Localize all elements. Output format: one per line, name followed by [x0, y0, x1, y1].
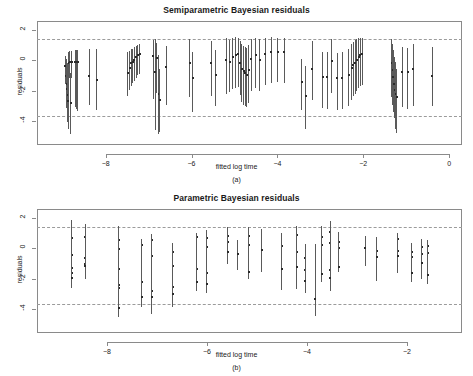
- residual-point: [321, 273, 323, 275]
- y-tick-label: 2: [19, 211, 26, 223]
- residual-point: [348, 74, 350, 76]
- panel-b-title: Parametric Bayesian residuals: [0, 193, 473, 203]
- credible-interval-segment: [192, 52, 193, 112]
- credible-interval-segment: [237, 240, 238, 270]
- residual-point: [215, 74, 217, 76]
- credible-interval-segment: [312, 41, 313, 100]
- credible-interval-segment: [77, 50, 78, 111]
- panel-a-x-axis-label: fitted log time: [0, 163, 473, 170]
- y-tick-mark: [32, 91, 36, 92]
- credible-interval-segment: [255, 38, 256, 88]
- credible-interval-segment: [396, 69, 397, 133]
- x-tick-mark: [449, 154, 450, 158]
- credible-interval-segment: [232, 38, 233, 89]
- credible-interval-segment: [322, 52, 323, 108]
- credible-interval-segment: [211, 41, 212, 96]
- credible-interval-segment: [229, 40, 230, 92]
- residual-point: [329, 277, 331, 279]
- x-tick-label: −6: [182, 160, 202, 167]
- credible-interval-segment: [139, 44, 140, 74]
- x-axis-line: [107, 342, 407, 343]
- credible-interval-segment: [226, 38, 227, 93]
- credible-interval-segment: [411, 243, 412, 282]
- residual-point: [322, 76, 324, 78]
- residual-point: [341, 77, 343, 79]
- residual-point: [237, 253, 239, 255]
- residual-point: [338, 266, 340, 268]
- residual-point: [427, 274, 429, 276]
- residual-point: [196, 281, 198, 283]
- x-tick-label: −4: [267, 160, 287, 167]
- x-tick-label: 0: [439, 160, 459, 167]
- residual-point: [139, 53, 141, 55]
- residual-point: [70, 102, 72, 104]
- x-tick-mark: [207, 342, 208, 346]
- y-tick-mark: [32, 248, 36, 249]
- credible-interval-segment: [296, 226, 297, 289]
- credible-interval-segment: [362, 38, 363, 85]
- residual-point: [305, 95, 307, 97]
- residual-point: [270, 51, 272, 53]
- reference-line-0: [37, 39, 462, 40]
- x-tick-mark: [363, 154, 364, 158]
- residual-point: [159, 99, 161, 101]
- y-tick-mark: [32, 60, 36, 61]
- panel-a-caption: (a): [0, 176, 473, 183]
- reference-line-1: [37, 304, 462, 305]
- residual-point: [412, 68, 414, 70]
- reference-line-0: [37, 227, 462, 228]
- residual-point: [311, 68, 313, 70]
- credible-interval-segment: [118, 226, 119, 317]
- residual-point: [172, 293, 174, 295]
- y-tick-label: -4: [19, 301, 26, 313]
- residual-point: [206, 283, 208, 285]
- panel-b-caption: (b): [0, 364, 473, 371]
- panel-a-title: Semiparametric Bayesian residuals: [0, 5, 473, 15]
- residual-point: [88, 75, 90, 77]
- residual-point: [411, 272, 413, 274]
- residual-point: [248, 271, 250, 273]
- credible-interval-segment: [348, 49, 349, 105]
- credible-interval-segment: [365, 236, 366, 265]
- credible-interval-segment: [305, 244, 306, 293]
- residual-point: [281, 268, 283, 270]
- credible-interval-segment: [327, 52, 328, 108]
- x-tick-mark: [307, 342, 308, 346]
- residual-point: [118, 307, 120, 309]
- residual-point: [431, 75, 433, 77]
- residual-point: [401, 71, 403, 73]
- residual-point: [376, 256, 378, 258]
- residual-point: [71, 61, 73, 63]
- x-tick-label: −8: [96, 160, 116, 167]
- residual-point: [189, 62, 191, 64]
- residual-point: [259, 59, 261, 61]
- y-tick-mark: [32, 309, 36, 310]
- credible-interval-segment: [315, 244, 316, 316]
- credible-interval-segment: [330, 221, 331, 291]
- residual-point: [361, 53, 363, 55]
- residual-point: [261, 249, 263, 251]
- y-tick-label: 0: [19, 53, 26, 65]
- residual-point: [296, 266, 298, 268]
- residual-point: [277, 51, 279, 53]
- credible-interval-segment: [248, 45, 249, 103]
- residual-point: [227, 251, 229, 253]
- credible-interval-segment: [342, 52, 343, 109]
- credible-interval-segment: [331, 39, 332, 92]
- x-tick-mark: [192, 154, 193, 158]
- residual-point: [151, 296, 153, 298]
- residual-point: [396, 96, 398, 98]
- residual-point: [407, 71, 409, 73]
- credible-interval-segment: [265, 38, 266, 86]
- residual-point: [225, 59, 227, 61]
- residual-plots-figure: Semiparametric Bayesian residuals residu…: [0, 0, 473, 376]
- residual-point: [84, 265, 86, 267]
- residual-point: [192, 77, 194, 79]
- credible-interval-segment: [413, 44, 414, 106]
- residual-point: [364, 247, 366, 249]
- x-tick-mark: [106, 154, 107, 158]
- credible-interval-segment: [376, 237, 377, 281]
- x-tick-mark: [107, 342, 108, 346]
- credible-interval-segment: [305, 66, 306, 130]
- x-tick-label: −2: [397, 348, 417, 355]
